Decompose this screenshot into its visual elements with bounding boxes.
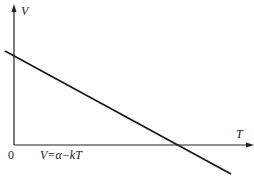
equation-label: V=α−kT (40, 148, 82, 163)
y-axis-label: V (21, 4, 28, 19)
data-line (5, 51, 231, 174)
y-axis-arrow-icon (12, 4, 17, 12)
x-axis-arrow-icon (246, 143, 254, 148)
x-axis-label: T (236, 127, 243, 142)
origin-label: 0 (8, 148, 14, 163)
chart-canvas (0, 0, 254, 194)
